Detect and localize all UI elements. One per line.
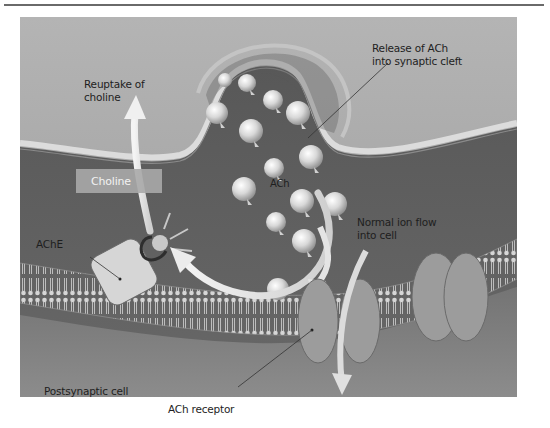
- ach-molecule-label: ACh: [270, 177, 289, 190]
- ion-flow-label: Normal ion flow into cell: [357, 216, 436, 242]
- ach-receptor-label: ACh receptor: [168, 403, 234, 416]
- closed-channel: [412, 253, 488, 341]
- reuptake-label: Reuptake of choline: [84, 78, 145, 104]
- ache-label: AChE: [36, 238, 63, 251]
- choline-box-label: Choline: [91, 175, 131, 188]
- release-label: Release of ACh into synaptic cleft: [372, 42, 462, 68]
- postsynaptic-cell-label: Postsynaptic cell: [44, 385, 128, 398]
- synapse-diagram: Reuptake of choline Release of ACh into …: [20, 17, 517, 397]
- top-rule: [4, 4, 544, 6]
